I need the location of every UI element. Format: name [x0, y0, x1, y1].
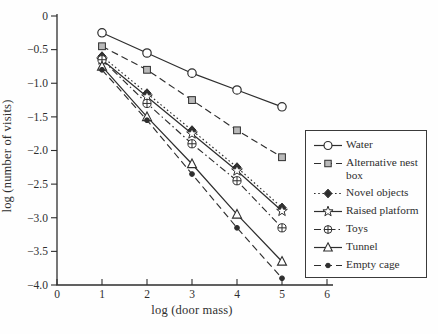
x-tick-label: 3: [189, 288, 195, 300]
x-axis-title: log (door mass): [57, 303, 327, 318]
y-tick-label: −3.5: [27, 245, 48, 257]
marker-dot-filled: [235, 225, 240, 230]
marker-circle-open: [324, 142, 332, 150]
y-tick-label: −4.0: [27, 279, 48, 291]
star-open-legend-icon: [313, 205, 343, 218]
x-tick-label: 1: [99, 288, 105, 300]
y-axis-title: log (number of visits): [0, 61, 16, 251]
diamond-filled-legend-icon: [313, 187, 343, 200]
marker-square-gray: [279, 154, 286, 161]
x-tick-label: 5: [279, 288, 285, 300]
circle-open-legend-icon: [313, 139, 343, 152]
legend-label: Empty cage: [346, 258, 400, 271]
axis-lines: [57, 14, 333, 285]
marker-star-open: [323, 206, 333, 216]
y-tick-label: −0.5: [27, 43, 48, 55]
legend-item-novel-objects: Novel objects: [313, 186, 422, 200]
legend-label: Novel objects: [346, 186, 408, 199]
marker-dot-filled: [326, 263, 331, 268]
y-tick-label: −1.5: [27, 111, 48, 123]
x-tick-label: 2: [144, 288, 150, 300]
dot-filled-legend-icon: [313, 259, 343, 272]
legend-label: Raised platform: [346, 204, 418, 217]
marker-dot-filled: [280, 276, 285, 281]
legend-item-raised-platform: Raised platform: [313, 204, 422, 218]
x-tick-label: 4: [234, 288, 240, 300]
legend-item-alternative-nest-box: Alternative nest box: [313, 156, 422, 182]
x-tick-label: 6: [324, 288, 330, 300]
marker-circle-open: [278, 103, 286, 111]
chart-figure: 0−0.5−1.0−1.5−2.0−2.5−3.0−3.5−4.00123456…: [0, 0, 438, 334]
marker-diamond-filled: [324, 189, 332, 198]
legend-item-tunnel: Tunnel: [313, 240, 422, 254]
legend-label: Toys: [346, 222, 368, 235]
marker-circle-open: [233, 86, 241, 94]
marker-dot-filled: [145, 118, 150, 123]
x-tick-label: 0: [54, 288, 60, 300]
marker-square-gray: [99, 43, 106, 50]
y-tick-label: −3.0: [27, 212, 48, 224]
legend-item-toys: Toys: [313, 222, 422, 236]
y-tick-label: −1.0: [27, 77, 48, 89]
marker-square-gray: [189, 97, 196, 104]
legend-item-empty-cage: Empty cage: [313, 258, 422, 272]
legend-label: Tunnel: [346, 240, 378, 253]
square-gray-legend-icon: [313, 157, 343, 170]
marker-dot-filled: [100, 67, 105, 72]
marker-square-gray: [325, 160, 331, 166]
marker-circle-open: [143, 49, 151, 57]
y-tick-label: −2.5: [27, 178, 48, 190]
y-tick-label: 0: [42, 10, 48, 22]
chart-legend: WaterAlternative nest boxNovel objectsRa…: [305, 130, 427, 278]
marker-dot-filled: [190, 172, 195, 177]
marker-circle-open: [188, 69, 196, 77]
y-tick-label: −2.0: [27, 144, 48, 156]
marker-square-gray: [144, 66, 151, 73]
circle-plus-legend-icon: [313, 223, 343, 236]
marker-square-gray: [234, 127, 241, 134]
marker-circle-open: [98, 29, 106, 37]
triangle-open-legend-icon: [313, 241, 343, 254]
legend-label: Alternative nest box: [346, 156, 422, 182]
legend-label: Water: [346, 138, 373, 151]
legend-item-water: Water: [313, 138, 422, 152]
